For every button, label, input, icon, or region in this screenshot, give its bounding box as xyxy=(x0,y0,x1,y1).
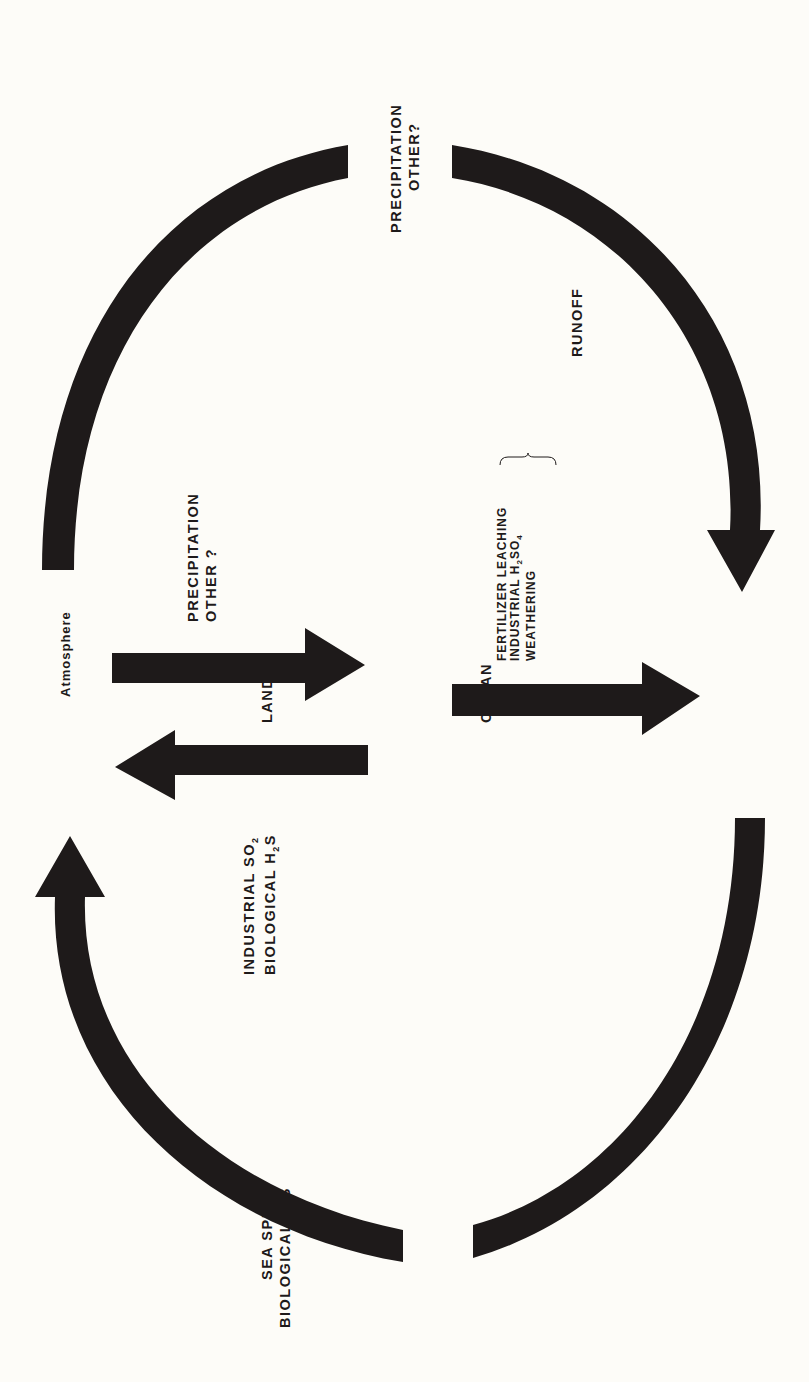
node-land: LAND xyxy=(258,677,276,723)
label-sea-spray-biological: SEA SPRAY BIOLOGICAL H2S xyxy=(258,1185,297,1328)
label-precipitation-other-middle: PRECIPITATION OTHER ? xyxy=(184,493,220,622)
runoff-brace xyxy=(498,453,558,466)
runoff-source-weathering: WEATHERING xyxy=(525,507,538,661)
label-biological-h2s: BIOLOGICAL H2S xyxy=(261,834,282,975)
label-biological-h2s-ocean: BIOLOGICAL H2S xyxy=(276,1185,297,1328)
runoff-source-industrial: INDUSTRIAL H2SO4 xyxy=(509,507,525,661)
label-industrial-so2: INDUSTRIAL SO2 xyxy=(240,834,261,975)
node-ocean: OCEAN xyxy=(477,663,495,723)
label-industrial-biological: INDUSTRIAL SO2 BIOLOGICAL H2S xyxy=(240,834,282,975)
label-runoff: RUNOFF xyxy=(568,288,586,357)
node-atmosphere: Atmosphere xyxy=(58,611,74,697)
curved-arrow-ocean-atmosphere-right-segment xyxy=(473,818,765,1258)
label-precipitation-other-top: PRECIPITATION OTHER? xyxy=(387,104,423,233)
label-runoff-sources: FERTILIZER LEACHING INDUSTRIAL H2SO4 WEA… xyxy=(496,507,538,661)
arrow-land-to-atmosphere xyxy=(115,730,368,800)
arrow-atmosphere-to-land xyxy=(112,628,365,701)
label-sea-spray: SEA SPRAY xyxy=(258,1185,276,1328)
curved-arrow-ocean-atmosphere-left-segment xyxy=(35,836,403,1262)
